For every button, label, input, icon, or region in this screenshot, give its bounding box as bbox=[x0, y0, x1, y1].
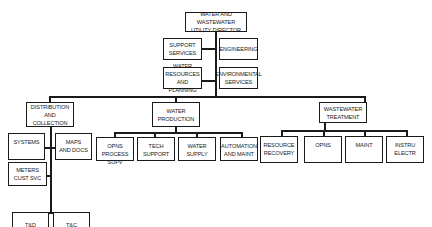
instru-electr-box: INSTRU ELECTR bbox=[386, 136, 424, 163]
engineering-box: ENGINEERING bbox=[219, 38, 258, 60]
automation-maint-box: AUTOMATION AND MAINT bbox=[220, 137, 258, 161]
tech-support-box: TECH SUPPORT bbox=[137, 137, 175, 161]
water-production-box: WATER PRODUCTION bbox=[152, 102, 200, 127]
wastewater-treatment-box: WASTEWATER TREATMENT bbox=[319, 102, 367, 123]
connector-wastewater-horizontal bbox=[281, 130, 408, 132]
td-box: T&D bbox=[12, 212, 49, 227]
director-box: WATER AND WASTEWATER UTILITY DIRECTOR bbox=[185, 12, 247, 32]
wastewater-maint-box: MAINT bbox=[345, 136, 383, 163]
connector-staff-bottom bbox=[201, 80, 215, 82]
connector-production-horizontal bbox=[114, 132, 242, 134]
distribution-collection-box: DISTRIBUTION AND COLLECTION bbox=[26, 102, 74, 127]
systems-box: SYSTEMS bbox=[8, 133, 45, 160]
tc-box: T&C bbox=[53, 212, 90, 227]
environmental-services-box: ENVIRONMENTAL SERVICES bbox=[219, 67, 258, 89]
connector-director-trunk bbox=[215, 30, 217, 97]
connector-main-horizontal bbox=[49, 96, 365, 98]
opns-process-supv-box: OPNS PROCESS SUPV bbox=[96, 137, 134, 161]
water-resources-box: WATER RESOURCES AND PLANNING bbox=[163, 67, 202, 89]
support-services-box: SUPPORT SERVICES bbox=[163, 38, 202, 60]
resource-recovery-box: RESOURCE RECOVERY bbox=[260, 136, 298, 163]
maps-docs-box: MAPS AND DOCS bbox=[55, 133, 92, 160]
water-supply-box: WATER SUPPLY bbox=[178, 137, 216, 161]
wastewater-opns-box: OPNS bbox=[304, 136, 342, 163]
connector-distribution-trunk bbox=[50, 127, 52, 213]
meters-cust-svc-box: METERS CUST SVC bbox=[8, 162, 47, 186]
connector-td-drop bbox=[30, 212, 32, 213]
connector-staff-top bbox=[201, 48, 215, 50]
